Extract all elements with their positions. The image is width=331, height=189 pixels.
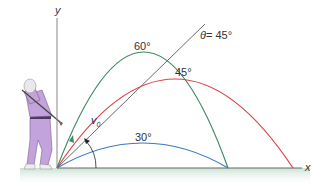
theta-value: = 45°: [206, 29, 232, 41]
trajectory-30: [57, 143, 228, 168]
projectile-diagram: y x 60° 45° 30° θ= 45° v0: [0, 0, 331, 189]
label-45-degrees: 45°: [175, 67, 192, 78]
velocity-label: v0: [91, 115, 100, 128]
diagram-svg: [0, 0, 331, 189]
reference-line-45: [57, 24, 205, 168]
theta-label: θ= 45°: [200, 30, 232, 41]
velocity-subscript: 0: [97, 121, 101, 128]
x-axis-label: x: [305, 162, 311, 173]
y-axis-label: y: [55, 5, 61, 16]
ground: [20, 168, 310, 186]
label-60-degrees: 60°: [134, 41, 151, 52]
trajectory-60: [57, 52, 228, 168]
angle-arc: [86, 141, 96, 168]
label-30-degrees: 30°: [135, 132, 152, 143]
